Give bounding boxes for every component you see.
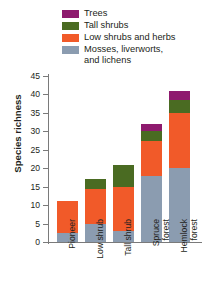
- x-tick-label-spruce-forest: Spruce forest: [152, 219, 171, 275]
- y-axis-tick-labels: 051015202530354045: [18, 0, 40, 304]
- plot-area: [49, 76, 201, 242]
- legend-swatch-tall-shrubs: [62, 22, 79, 30]
- legend-label-mosses-liverworts-lichens: Mosses, liverworts, and lichens: [84, 44, 163, 66]
- y-tick-label-15: 15: [18, 182, 40, 192]
- legend-item-trees: Trees: [62, 8, 208, 19]
- x-tick-label-tall-shrub: Tall shrub: [124, 219, 134, 275]
- legend-label-trees: Trees: [84, 8, 107, 19]
- y-tick-label-10: 10: [18, 200, 40, 210]
- bar-segment-3: [141, 124, 162, 131]
- legend-item-tall-shrubs: Tall shrubs: [62, 20, 208, 31]
- bar-segment-2: [85, 179, 106, 188]
- species-richness-chart: Trees Tall shrubs Low shrubs and herbs M…: [0, 0, 211, 304]
- x-tick-label-pioneer: Pioneer: [68, 219, 78, 275]
- x-tick-label-hemlock-forest: Hemlock forest: [180, 219, 199, 275]
- legend-swatch-low-shrubs-and-herbs: [62, 34, 79, 42]
- y-tick-label-35: 35: [18, 108, 40, 118]
- legend-label-low-shrubs-and-herbs: Low shrubs and herbs: [84, 32, 175, 43]
- bar-segment-1: [169, 113, 190, 168]
- legend-label-tall-shrubs: Tall shrubs: [84, 20, 128, 31]
- bar-segment-2: [169, 100, 190, 113]
- y-tick-label-30: 30: [18, 126, 40, 136]
- bar-segment-2: [141, 131, 162, 140]
- chart-legend: Trees Tall shrubs Low shrubs and herbs M…: [62, 8, 208, 67]
- y-tick-label-40: 40: [18, 89, 40, 99]
- y-tick-label-45: 45: [18, 71, 40, 81]
- bar-segment-1: [141, 141, 162, 176]
- legend-swatch-trees: [62, 10, 79, 18]
- bar-segment-2: [113, 165, 134, 187]
- legend-item-mosses-liverworts-lichens: Mosses, liverworts, and lichens: [62, 44, 208, 66]
- y-tick-label-25: 25: [18, 145, 40, 155]
- y-tick-label-20: 20: [18, 163, 40, 173]
- bar-segment-3: [169, 91, 190, 100]
- legend-item-low-shrubs-and-herbs: Low shrubs and herbs: [62, 32, 208, 43]
- y-tick-label-0: 0: [18, 237, 40, 247]
- y-tick-label-5: 5: [18, 219, 40, 229]
- x-tick-label-low-shrub: Low shrub: [96, 219, 106, 275]
- legend-swatch-mosses-liverworts-lichens: [62, 46, 79, 54]
